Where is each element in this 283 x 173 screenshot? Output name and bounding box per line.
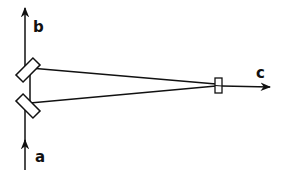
beam-diagram: b c a — [0, 0, 283, 173]
label-c: c — [256, 64, 265, 82]
lower-ray — [30, 86, 216, 103]
upper-ray — [30, 68, 216, 84]
mirror-upper — [16, 58, 40, 82]
label-b: b — [33, 18, 44, 36]
mirror-lower — [16, 94, 40, 118]
lens-through-line — [215, 86, 222, 87]
beam-c-line — [222, 86, 270, 87]
label-a: a — [35, 148, 45, 166]
